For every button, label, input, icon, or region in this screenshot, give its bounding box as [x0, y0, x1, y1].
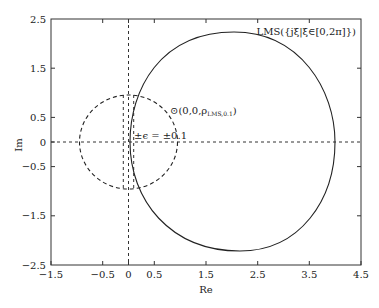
svg-text:1.5: 1.5	[198, 269, 214, 280]
svg-text:−0.5: −0.5	[91, 269, 115, 280]
svg-text:2.5: 2.5	[250, 269, 266, 280]
svg-text:−0.5: −0.5	[22, 161, 46, 172]
lms-curve-label: LMS({jξ|ξ∈[0,2π]})	[257, 26, 357, 38]
svg-text:−2.5: −2.5	[22, 260, 46, 271]
x-ticks	[51, 19, 361, 265]
svg-text:2.5: 2.5	[30, 14, 46, 25]
y-tick-labels: 2.5 1.5 0.5 0 −0.5 −1.5 −2.5	[22, 14, 46, 271]
y-axis-label: Im	[13, 138, 24, 152]
svg-text:3.5: 3.5	[301, 269, 317, 280]
plot-area	[51, 19, 361, 265]
svg-text:0: 0	[40, 137, 46, 148]
svg-text:−1.5: −1.5	[22, 210, 46, 221]
x-axis-label: Re	[199, 284, 213, 295]
plot-frame	[51, 19, 361, 265]
chart: −1.5 −0.5 0 0.5 1.5 2.5 3.5 4.5 2.5 1.5 …	[0, 0, 379, 308]
svg-text:0: 0	[125, 269, 131, 280]
svg-text:4.5: 4.5	[353, 269, 369, 280]
svg-text:1.5: 1.5	[30, 63, 46, 74]
dashed-circle-label: ⊙(0,0,ρLMS,0.1)	[170, 105, 237, 117]
epsilon-label: ±ϵ = ±0.1	[134, 130, 187, 141]
x-tick-labels: −1.5 −0.5 0 0.5 1.5 2.5 3.5 4.5	[39, 269, 369, 280]
y-ticks	[51, 68, 361, 216]
svg-text:0.5: 0.5	[146, 269, 162, 280]
svg-text:0.5: 0.5	[30, 112, 46, 123]
